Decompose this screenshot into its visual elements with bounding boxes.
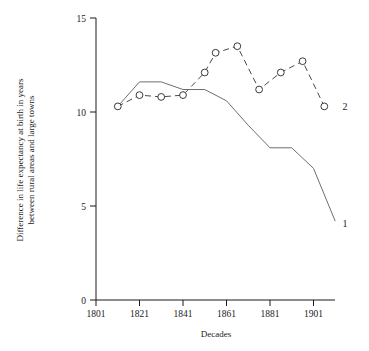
y-tick-label-0: 0 — [81, 296, 86, 306]
data-point — [321, 103, 328, 110]
chart-container: 0 5 10 15 1801 1821 1841 1861 1881 1901 … — [0, 0, 369, 351]
y-tick-label-5: 5 — [81, 202, 86, 212]
data-point — [299, 58, 306, 65]
chart-background — [0, 0, 369, 351]
y-tick-label-10: 10 — [77, 108, 87, 118]
data-point — [180, 92, 187, 99]
data-point — [212, 49, 219, 56]
series-2-label: 2 — [343, 101, 348, 112]
x-tick-label-1901: 1901 — [304, 309, 323, 319]
y-axis-title-line1: Difference in life expectancy at birth i… — [15, 78, 25, 242]
x-tick-label-1881: 1881 — [261, 309, 280, 319]
data-point — [114, 103, 121, 110]
life-expectancy-line-chart: 0 5 10 15 1801 1821 1841 1861 1881 1901 … — [0, 0, 369, 351]
x-tick-label-1841: 1841 — [174, 309, 193, 319]
x-tick-label-1801: 1801 — [87, 309, 106, 319]
data-point — [277, 69, 284, 76]
x-tick-label-1821: 1821 — [130, 309, 149, 319]
data-point — [158, 94, 165, 101]
data-point — [201, 69, 208, 76]
data-point — [256, 86, 263, 93]
y-tick-label-15: 15 — [77, 14, 87, 24]
x-axis-title: Decades — [201, 329, 232, 339]
y-axis-title-line2: between rural areas and large towns — [26, 95, 36, 225]
data-point — [136, 92, 143, 99]
series-1-label: 1 — [343, 218, 348, 229]
data-point — [234, 43, 241, 50]
x-tick-label-1861: 1861 — [217, 309, 236, 319]
